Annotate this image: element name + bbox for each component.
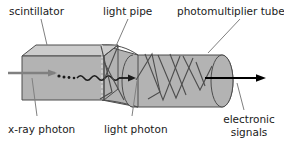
pmt-end-ellipse <box>211 55 233 107</box>
label-photomultiplier-tube: photomultiplier tube <box>177 5 284 17</box>
interaction-dot <box>73 77 76 80</box>
leader-light-pipe <box>116 19 128 46</box>
figure-canvas: scintillator light pipe photomultiplier … <box>0 0 284 143</box>
label-electronic-signals-line2: signals <box>231 126 268 138</box>
scintillator-top-face <box>22 45 118 56</box>
label-electronic-signals-line1: electronic <box>223 113 275 125</box>
label-scintillator: scintillator <box>9 5 65 17</box>
leader-electronic-signals <box>237 83 244 110</box>
label-light-pipe: light pipe <box>103 5 152 17</box>
label-xray-photon: x-ray photon <box>8 123 75 135</box>
leader-photomultiplier-tube <box>208 19 240 53</box>
interaction-dot <box>68 76 71 79</box>
electronic-signals-arrowhead <box>256 74 266 82</box>
leader-scintillator <box>41 19 47 45</box>
label-light-photon: light photon <box>104 123 168 135</box>
scintillation-detector-diagram: scintillator light pipe photomultiplier … <box>0 0 284 143</box>
interaction-dot <box>63 76 66 79</box>
interaction-dot <box>57 74 60 77</box>
